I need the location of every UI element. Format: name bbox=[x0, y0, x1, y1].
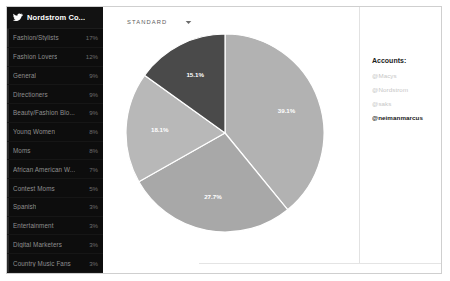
segment-percent: 3% bbox=[89, 203, 98, 210]
segment-label: Digital Marketers bbox=[13, 241, 62, 248]
account-item[interactable]: @saks bbox=[372, 100, 441, 107]
segment-label: Contest Moms bbox=[13, 185, 55, 192]
segment-percent: 9% bbox=[89, 91, 98, 98]
segment-row[interactable]: Directioners9% bbox=[7, 85, 103, 104]
chart-region: 39.1%27.7%18.1%15.1% bbox=[103, 33, 359, 261]
accounts-panel-title: Accounts: bbox=[372, 57, 441, 64]
segment-percent: 12% bbox=[86, 53, 98, 60]
segment-row[interactable]: Entertainment3% bbox=[7, 217, 103, 236]
segment-row[interactable]: Young Women8% bbox=[7, 123, 103, 142]
app-window: Nordstrom Co... Fashion/Stylists17%Fashi… bbox=[6, 6, 442, 274]
segment-row[interactable]: Spanish3% bbox=[7, 198, 103, 217]
segment-row[interactable]: Fashion Lovers12% bbox=[7, 48, 103, 67]
chart-footer-divider bbox=[199, 263, 441, 273]
segment-percent: 8% bbox=[89, 128, 98, 135]
pie-slice-label: 15.1% bbox=[186, 71, 204, 78]
segment-percent: 9% bbox=[89, 109, 98, 116]
segment-label: African American W... bbox=[13, 166, 75, 173]
segment-label: Young Women bbox=[13, 128, 55, 135]
accounts-list: @Macys@Nordstrom@saks@neimanmarcus bbox=[372, 72, 441, 121]
segment-percent: 7% bbox=[89, 166, 98, 173]
segment-percent: 3% bbox=[89, 222, 98, 229]
segment-row[interactable]: African American W...7% bbox=[7, 160, 103, 179]
pie-slices bbox=[126, 34, 324, 232]
segment-list: Fashion/Stylists17%Fashion Lovers12%Gene… bbox=[7, 29, 103, 273]
segment-label: Directioners bbox=[13, 91, 48, 98]
account-item[interactable]: @Nordstrom bbox=[372, 86, 441, 93]
segment-row[interactable]: Moms8% bbox=[7, 142, 103, 161]
accounts-panel: Accounts: @Macys@Nordstrom@saks@neimanma… bbox=[359, 7, 441, 273]
pie-slice-label: 27.7% bbox=[204, 193, 222, 200]
segment-percent: 5% bbox=[89, 185, 98, 192]
segment-label: Beauty/Fashion Blo... bbox=[13, 109, 75, 116]
pie-chart-svg: 39.1%27.7%18.1%15.1% bbox=[125, 33, 325, 233]
segment-row[interactable]: General9% bbox=[7, 67, 103, 86]
segment-label: Fashion/Stylists bbox=[13, 34, 59, 41]
segment-row[interactable]: Country Music Fans3% bbox=[7, 254, 103, 273]
segment-percent: 3% bbox=[89, 260, 98, 267]
main-content: STANDARD 39.1%27.7%18.1%15.1% Accounts: … bbox=[103, 7, 441, 273]
account-item[interactable]: @Macys bbox=[372, 72, 441, 79]
segment-label: General bbox=[13, 72, 36, 79]
segment-row[interactable]: Contest Moms5% bbox=[7, 179, 103, 198]
pie-chart[interactable]: 39.1%27.7%18.1%15.1% bbox=[125, 33, 325, 233]
segment-label: Country Music Fans bbox=[13, 260, 71, 267]
view-mode-dropdown[interactable]: STANDARD bbox=[127, 19, 192, 25]
segment-label: Entertainment bbox=[13, 222, 54, 229]
segment-row[interactable]: Digital Marketers3% bbox=[7, 235, 103, 254]
pie-slice-label: 18.1% bbox=[151, 126, 169, 133]
segment-percent: 17% bbox=[86, 34, 98, 41]
segment-row[interactable]: Beauty/Fashion Blo...9% bbox=[7, 104, 103, 123]
segment-row[interactable]: Fashion/Stylists17% bbox=[7, 29, 103, 48]
segment-percent: 3% bbox=[89, 241, 98, 248]
segment-percent: 9% bbox=[89, 72, 98, 79]
sidebar-header[interactable]: Nordstrom Co... bbox=[7, 7, 103, 29]
sidebar: Nordstrom Co... Fashion/Stylists17%Fashi… bbox=[7, 7, 103, 273]
segment-label: Spanish bbox=[13, 203, 36, 210]
segment-label: Fashion Lovers bbox=[13, 53, 57, 60]
chevron-down-icon bbox=[185, 20, 192, 25]
view-mode-label: STANDARD bbox=[127, 19, 167, 25]
twitter-bird-icon bbox=[12, 12, 23, 23]
pie-slice-label: 39.1% bbox=[278, 107, 296, 114]
sidebar-account-title: Nordstrom Co... bbox=[27, 13, 85, 22]
segment-percent: 8% bbox=[89, 147, 98, 154]
segment-label: Moms bbox=[13, 147, 31, 154]
account-item[interactable]: @neimanmarcus bbox=[372, 114, 441, 121]
